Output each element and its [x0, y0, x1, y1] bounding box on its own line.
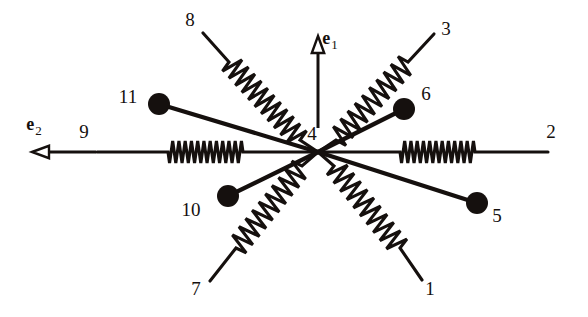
mass-rod-6: [318, 109, 404, 152]
e1-label: e1: [322, 28, 338, 52]
mass-10: [217, 185, 239, 207]
mass-6: [393, 98, 415, 120]
spring-mass-diagram: e1e28371921161054: [0, 0, 588, 317]
spring-label-2: 2: [546, 121, 556, 142]
spring-9: [97, 141, 318, 163]
spring-label-9: 9: [79, 121, 89, 142]
spring-7: [210, 152, 318, 281]
hub-label: 4: [307, 123, 317, 144]
spring-label-1: 1: [425, 278, 435, 299]
spring-2: [318, 141, 548, 163]
spring-1: [318, 152, 422, 280]
e2-arrowhead-icon: [32, 146, 49, 158]
spring-label-7: 7: [191, 278, 201, 299]
mass-label-6: 6: [421, 83, 431, 104]
mass-label-10: 10: [182, 199, 201, 220]
mass-label-5: 5: [492, 205, 502, 226]
spring-label-3: 3: [441, 18, 451, 39]
mass-11: [148, 93, 170, 115]
e2-label: e2: [26, 114, 42, 138]
diagram-canvas: e1e28371921161054: [0, 0, 588, 317]
mass-label-11: 11: [119, 86, 137, 107]
spring-label-8: 8: [185, 9, 195, 30]
mass-5: [466, 192, 488, 214]
